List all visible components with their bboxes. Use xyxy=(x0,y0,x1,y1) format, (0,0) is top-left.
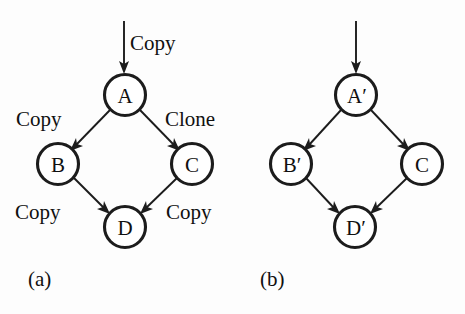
node-a-prime[interactable]: A′ xyxy=(336,75,377,116)
edge-ap-to-bp xyxy=(303,110,341,151)
entry-arrow-a xyxy=(119,21,129,74)
node-a-prime-label: A′ xyxy=(347,84,367,108)
edge-a-to-b xyxy=(70,110,110,151)
dag-figure: A B C D Copy Copy Clone Copy Copy (a) xyxy=(0,0,465,314)
node-c-label: C xyxy=(185,153,199,177)
node-d-prime[interactable]: D′ xyxy=(335,207,376,248)
edge-label-entry-copy: Copy xyxy=(130,31,176,55)
node-b-prime-label: B′ xyxy=(283,153,302,177)
edge-label-a-to-b-copy: Copy xyxy=(16,107,62,131)
edge-ap-to-c xyxy=(371,110,410,151)
node-b-prime[interactable]: B′ xyxy=(271,144,312,185)
edge-bp-to-dp xyxy=(306,178,340,214)
node-c-b-panel-label: C xyxy=(415,153,429,177)
panel-b: A′ B′ C D′ (b) xyxy=(260,21,443,291)
node-d-label: D xyxy=(117,216,132,240)
node-b-label: B xyxy=(51,153,65,177)
node-c-b-panel[interactable]: C xyxy=(402,144,443,185)
node-a[interactable]: A xyxy=(105,75,146,116)
edge-label-c-to-d-copy: Copy xyxy=(166,200,212,224)
edge-label-b-to-d-copy: Copy xyxy=(15,200,61,224)
node-d[interactable]: D xyxy=(105,207,146,248)
entry-arrow-b xyxy=(351,21,361,74)
figure-root: A B C D Copy Copy Clone Copy Copy (a) xyxy=(0,0,465,314)
panel-b-caption: (b) xyxy=(260,267,285,291)
node-d-prime-label: D′ xyxy=(346,216,366,240)
panel-a: A B C D Copy Copy Clone Copy Copy (a) xyxy=(15,21,215,291)
edge-label-a-to-c-clone: Clone xyxy=(165,107,215,131)
panel-a-caption: (a) xyxy=(28,267,51,291)
node-b[interactable]: B xyxy=(38,144,79,185)
edge-b-to-d xyxy=(74,178,110,214)
node-a-label: A xyxy=(117,84,133,108)
node-c[interactable]: C xyxy=(172,144,213,185)
edge-c-to-dp xyxy=(370,178,407,214)
